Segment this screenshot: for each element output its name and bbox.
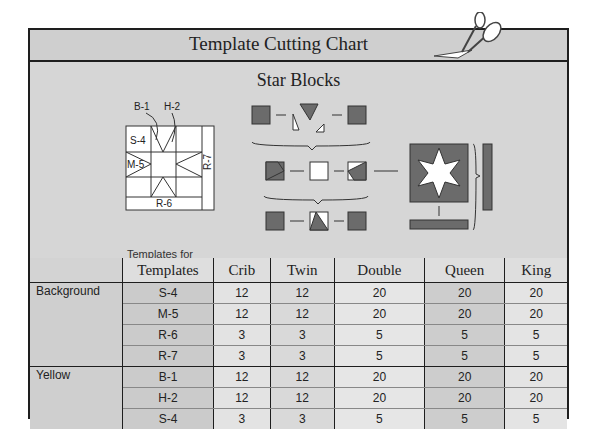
star-blocks-section: Star Blocks S-4 M-5 R-6 R-7 B-1 H-2 Temp… — [30, 62, 567, 260]
cell-twin: 12 — [270, 304, 334, 325]
cell-crib: 12 — [214, 388, 271, 409]
cell-crib: 3 — [214, 409, 271, 430]
cell-twin: 12 — [270, 388, 334, 409]
template-diagram: S-4 M-5 R-6 R-7 B-1 H-2 — [116, 100, 216, 218]
label-r6: R-6 — [156, 198, 173, 209]
section-title: Star Blocks — [30, 70, 567, 91]
assembly-diagram — [248, 102, 518, 252]
cell-twin: 12 — [270, 367, 334, 388]
cell-crib: 12 — [214, 304, 271, 325]
cell-queen: 5 — [424, 346, 504, 367]
cell-double: 20 — [334, 388, 424, 409]
group-label-yellow: Yellow — [30, 367, 123, 430]
cell-crib: 3 — [214, 325, 271, 346]
cell-double: 5 — [334, 325, 424, 346]
cell-king: 20 — [505, 304, 567, 325]
cell-template: M-5 — [123, 304, 214, 325]
cell-queen: 20 — [424, 283, 504, 304]
cell-double: 20 — [334, 304, 424, 325]
table-header-row: Templates Crib Twin Double Queen King — [30, 258, 567, 283]
col-header-crib: Crib — [214, 258, 271, 283]
cell-template: R-7 — [123, 346, 214, 367]
col-header-king: King — [505, 258, 567, 283]
cell-double: 5 — [334, 409, 424, 430]
col-header-group — [30, 258, 123, 283]
col-header-twin: Twin — [270, 258, 334, 283]
cell-queen: 20 — [424, 388, 504, 409]
cell-template: B-1 — [123, 367, 214, 388]
cell-king: 20 — [505, 367, 567, 388]
group-label-background: Background — [30, 283, 123, 367]
col-header-templates: Templates — [123, 258, 214, 283]
col-header-double: Double — [334, 258, 424, 283]
cell-king: 20 — [505, 283, 567, 304]
cutting-table: Templates Crib Twin Double Queen King Ba… — [30, 258, 567, 429]
label-s4: S-4 — [130, 135, 146, 146]
cell-template: H-2 — [123, 388, 214, 409]
cell-crib: 3 — [214, 346, 271, 367]
cell-king: 5 — [505, 325, 567, 346]
cell-queen: 20 — [424, 367, 504, 388]
cell-double: 5 — [334, 346, 424, 367]
label-m5: M-5 — [127, 159, 145, 170]
cell-king: 5 — [505, 409, 567, 430]
cell-twin: 12 — [270, 283, 334, 304]
cell-template: R-6 — [123, 325, 214, 346]
cell-double: 20 — [334, 283, 424, 304]
title-band: Template Cutting Chart — [30, 30, 567, 62]
label-r7: R-7 — [202, 153, 213, 170]
cell-crib: 12 — [214, 367, 271, 388]
chart-title-text: Template Cutting Chart — [189, 33, 368, 54]
cell-queen: 5 — [424, 325, 504, 346]
cell-crib: 12 — [214, 283, 271, 304]
table-row: Background S-4 12 12 20 20 20 — [30, 283, 567, 304]
cell-king: 5 — [505, 346, 567, 367]
cell-twin: 3 — [270, 346, 334, 367]
cell-queen: 5 — [424, 409, 504, 430]
scissors-icon — [432, 12, 502, 62]
cell-twin: 3 — [270, 409, 334, 430]
cell-queen: 20 — [424, 304, 504, 325]
cell-double: 20 — [334, 367, 424, 388]
col-header-queen: Queen — [424, 258, 504, 283]
cutting-chart: Template Cutting Chart Star Blocks S-4 M… — [28, 28, 569, 419]
cell-twin: 3 — [270, 325, 334, 346]
label-b1: B-1 — [134, 101, 150, 112]
cell-king: 20 — [505, 388, 567, 409]
cell-template: S-4 — [123, 283, 214, 304]
table-row: Yellow B-1 12 12 20 20 20 — [30, 367, 567, 388]
label-h2: H-2 — [164, 101, 181, 112]
cell-template: S-4 — [123, 409, 214, 430]
